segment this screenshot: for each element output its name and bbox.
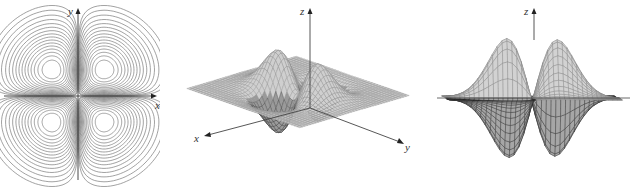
z-axis-label: z	[523, 5, 529, 17]
surface-plot-oblique: z x y	[180, 0, 420, 190]
surface-side-svg: z	[420, 0, 632, 190]
y-axis	[310, 108, 400, 142]
surface-plot-side: z	[420, 0, 632, 190]
contour-plot-svg: y x	[0, 0, 160, 190]
contour-plot: y x	[0, 0, 160, 190]
z-axis-arrow-icon	[308, 8, 313, 14]
z-axis-arrow-icon	[532, 8, 537, 14]
y-axis-label: y	[404, 141, 410, 153]
surface-oblique-svg: z x y	[180, 0, 420, 190]
y-axis-arrow-icon	[397, 138, 404, 144]
x-axis-label: x	[154, 99, 160, 111]
y-axis-arrow-icon	[76, 8, 81, 14]
y-axis-label: y	[67, 5, 73, 17]
x-axis-label: x	[193, 132, 199, 144]
x-axis-arrow-icon	[151, 94, 157, 99]
z-axis-label: z	[299, 5, 305, 17]
x-axis-arrow-icon	[204, 132, 211, 137]
